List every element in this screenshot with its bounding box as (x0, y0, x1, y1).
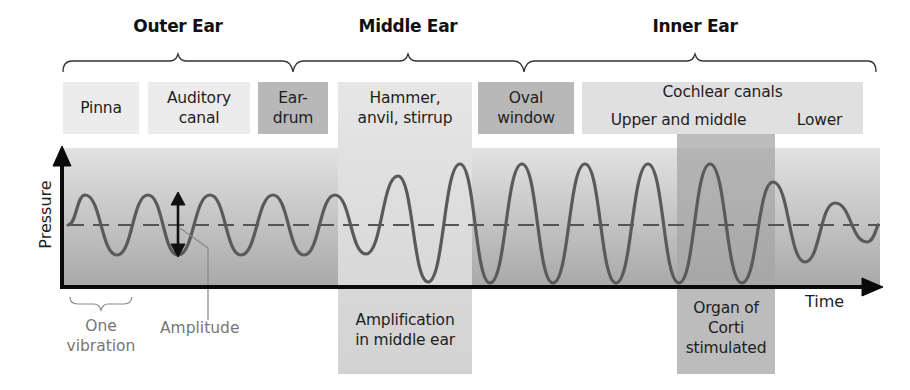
amplification-label: Amplification in middle ear (338, 305, 472, 355)
lower-label: Lower (797, 110, 842, 130)
upper-middle-label: Upper and middle (611, 110, 747, 130)
corti-line-3: stimulated (686, 338, 767, 358)
amplitude-label: Amplitude (160, 318, 239, 338)
cochlear-canals-label: Cochlear canals (662, 82, 782, 102)
eardrum-box: Ear- drum (258, 82, 328, 134)
ossicles-box: Hammer, anvil, stirrup (338, 82, 472, 134)
one-vibration-label: One vibration (56, 316, 146, 356)
auditory-canal-box: Auditory canal (148, 82, 250, 134)
region-braces (63, 54, 876, 72)
auditory-canal-label-1: Auditory (167, 88, 231, 108)
oval-window-box: Oval window (478, 82, 574, 134)
eardrum-label-2: drum (273, 108, 313, 128)
one-vibration-line-2: vibration (56, 336, 146, 356)
time-axis-label: Time (805, 292, 844, 311)
oval-window-label-2: window (497, 108, 555, 128)
pinna-label: Pinna (80, 98, 121, 118)
lower-canal: Lower (776, 107, 863, 133)
amplification-line-1: Amplification (355, 310, 454, 330)
upper-middle-canal: Upper and middle (582, 107, 775, 133)
oval-window-label-1: Oval (509, 88, 543, 108)
ossicles-label-2: anvil, stirrup (358, 108, 453, 128)
pinna-box: Pinna (63, 82, 139, 134)
eardrum-label-1: Ear- (278, 88, 307, 108)
ossicles-label-1: Hammer, (370, 88, 441, 108)
amplification-line-2: in middle ear (355, 330, 455, 350)
corti-line-2: Corti (708, 318, 744, 338)
one-vibration-brace (70, 297, 132, 310)
pressure-axis-label: Pressure (36, 180, 55, 250)
auditory-canal-label-2: canal (179, 108, 220, 128)
organ-of-corti-label: Organ of Corti stimulated (677, 292, 775, 364)
corti-line-1: Organ of (693, 298, 759, 318)
one-vibration-line-1: One (56, 316, 146, 336)
